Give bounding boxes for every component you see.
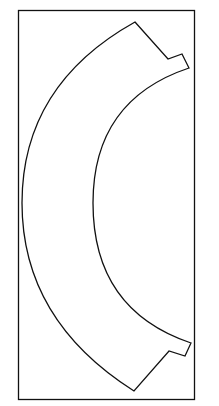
- arc-band-shape: [22, 22, 191, 391]
- frame-border: [19, 11, 195, 400]
- arc-template-diagram: [0, 0, 219, 406]
